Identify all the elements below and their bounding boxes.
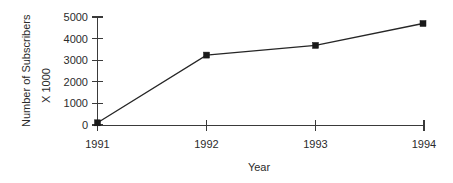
y-tick-label-5000: 5000 bbox=[64, 11, 88, 23]
y-axis-title-line2: X 1000 bbox=[40, 68, 52, 103]
data-point-1991 bbox=[95, 120, 101, 126]
y-tick-label-1000: 1000 bbox=[64, 97, 88, 109]
x-tick-label-1993: 1993 bbox=[303, 138, 327, 150]
subscribers-line-chart: 5000 4000 3000 2000 1000 0 1991 1992 199… bbox=[0, 0, 453, 183]
y-tick-label-2000: 2000 bbox=[64, 76, 88, 88]
chart-page: 5000 4000 3000 2000 1000 0 1991 1992 199… bbox=[0, 0, 453, 183]
chart-background bbox=[0, 0, 453, 183]
x-tick-label-1991: 1991 bbox=[85, 138, 109, 150]
x-tick-label-1994: 1994 bbox=[412, 138, 436, 150]
data-point-1992 bbox=[204, 52, 210, 58]
y-tick-label-3000: 3000 bbox=[64, 54, 88, 66]
x-tick-label-1992: 1992 bbox=[194, 138, 218, 150]
y-tick-label-4000: 4000 bbox=[64, 33, 88, 45]
data-point-1993 bbox=[313, 42, 319, 48]
y-axis-title-line1: Number of Subscribers bbox=[20, 14, 32, 127]
y-tick-label-0: 0 bbox=[82, 119, 88, 131]
x-axis-title: Year bbox=[248, 161, 271, 173]
data-point-1994 bbox=[420, 21, 426, 27]
